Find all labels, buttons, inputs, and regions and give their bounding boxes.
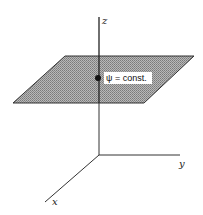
diagram-canvas: ψ = const. z y x — [0, 0, 203, 215]
constant-psi-plane — [13, 56, 194, 103]
plane-label: ψ = const. — [106, 73, 147, 83]
intersection-point — [95, 75, 101, 81]
y-axis-label: y — [178, 158, 185, 169]
x-axis — [45, 155, 99, 202]
x-axis-label: x — [52, 196, 58, 207]
z-axis-label: z — [101, 15, 108, 26]
